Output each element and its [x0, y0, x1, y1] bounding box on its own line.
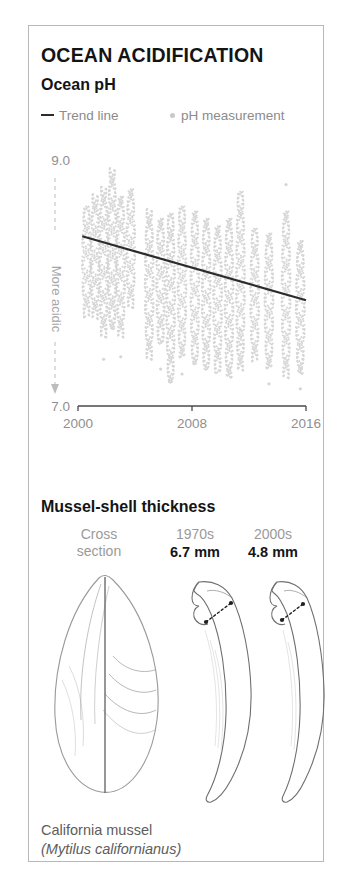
chart-subtitle: Ocean pH	[41, 76, 116, 94]
axis-annotation: More acidic	[49, 178, 64, 394]
ph-scatter-chart: 2000200820169.07.0 More acidic	[29, 144, 325, 444]
mussel-illustrations	[29, 570, 325, 818]
caption-common-name: California mussel	[41, 821, 181, 840]
figure-caption: California mussel (Mytilus californianus…	[41, 821, 181, 859]
svg-text:2000: 2000	[63, 416, 93, 431]
cross-section-label-line2: section	[47, 543, 151, 560]
cross-section-2000s	[270, 582, 324, 803]
shell-column-labels: Cross section 1970s 6.7 mm 2000s 4.8 mm	[29, 526, 325, 572]
chart-svg: 2000200820169.07.0 More acidic	[29, 144, 325, 444]
infographic-panel: OCEAN ACIDIFICATION Ocean pH Trend line …	[28, 25, 324, 862]
decade-label-1970s: 1970s	[157, 526, 233, 543]
legend-label-measurement: pH measurement	[181, 108, 285, 123]
thickness-marker-2000s	[280, 602, 305, 622]
thickness-marker-1970s	[204, 601, 233, 624]
svg-text:9.0: 9.0	[51, 153, 70, 168]
section-title: Mussel-shell thickness	[41, 498, 215, 516]
dash-icon	[41, 114, 54, 117]
svg-text:7.0: 7.0	[51, 399, 70, 414]
shells-svg	[29, 570, 325, 818]
legend-item-measurement: pH measurement	[166, 106, 285, 124]
shell-column-2000s: 2000s 4.8 mm	[235, 526, 311, 561]
chart-legend: Trend line pH measurement	[41, 106, 316, 124]
decade-label-2000s: 2000s	[235, 526, 311, 543]
dot-icon	[170, 113, 175, 118]
scatter-points	[81, 167, 306, 390]
whole-mussel-shell	[55, 576, 158, 793]
page-title: OCEAN ACIDIFICATION	[41, 44, 264, 67]
svg-text:More acidic: More acidic	[49, 266, 64, 333]
thickness-value-2000s: 4.8 mm	[235, 543, 311, 561]
svg-text:2016: 2016	[291, 416, 321, 431]
cross-section-1970s	[192, 582, 251, 803]
svg-text:2008: 2008	[177, 416, 207, 431]
legend-label-trend: Trend line	[59, 108, 119, 123]
shell-column-cross-section: Cross section	[47, 526, 151, 560]
legend-item-trend: Trend line	[41, 106, 119, 124]
shell-column-1970s: 1970s 6.7 mm	[157, 526, 233, 561]
thickness-value-1970s: 6.7 mm	[157, 543, 233, 561]
cross-section-label-line1: Cross	[47, 526, 151, 543]
caption-scientific-name: (Mytilus californianus)	[41, 840, 181, 859]
